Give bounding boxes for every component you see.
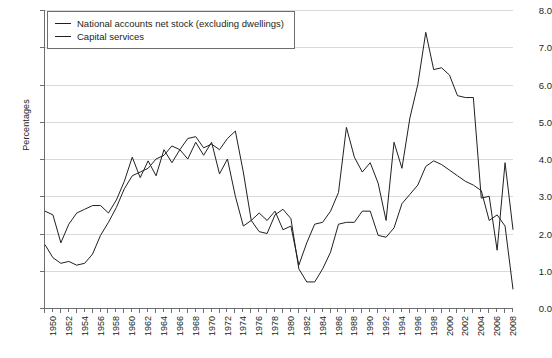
x-tick-mark (369, 308, 370, 312)
x-tick-label: 2006 (492, 316, 502, 336)
y-tick-mark (40, 196, 44, 197)
x-tick-mark (211, 308, 212, 312)
y-tick-mark (40, 159, 44, 160)
y-tick-mark (40, 271, 44, 272)
x-tick-mark (282, 308, 283, 313)
x-tick-label: 1956 (96, 316, 106, 336)
x-tick-mark (330, 308, 331, 313)
x-tick-label: 2008 (508, 316, 518, 336)
x-tick-mark (187, 308, 188, 313)
x-tick-mark (147, 308, 148, 312)
x-tick-mark (480, 308, 481, 312)
x-tick-mark (234, 308, 235, 313)
x-tick-label: 1992 (381, 316, 391, 336)
x-tick-mark (44, 308, 45, 313)
x-tick-mark (504, 308, 505, 313)
x-tick-mark (163, 308, 164, 312)
x-tick-mark (512, 308, 513, 312)
chart-legend: National accounts net stock (excluding d… (47, 11, 295, 49)
x-tick-mark (139, 308, 140, 313)
chart-figure: Percentages 0.01.02.03.04.05.06.07.08.0 … (0, 0, 552, 358)
x-tick-label: 1984 (318, 316, 328, 336)
series-line (45, 131, 513, 289)
x-tick-label: 2002 (460, 316, 470, 336)
x-tick-mark (84, 308, 85, 312)
x-tick-mark (409, 308, 410, 313)
x-tick-mark (195, 308, 196, 312)
x-tick-mark (361, 308, 362, 313)
x-tick-label: 1970 (207, 316, 217, 336)
x-tick-mark (226, 308, 227, 312)
x-tick-mark (449, 308, 450, 312)
x-tick-mark (52, 308, 53, 312)
x-tick-mark (60, 308, 61, 313)
x-tick-mark (464, 308, 465, 312)
plot-area (44, 10, 513, 308)
legend-item: National accounts net stock (excluding d… (55, 17, 284, 30)
x-tick-mark (306, 308, 307, 312)
x-tick-mark (100, 308, 101, 312)
x-tick-mark (322, 308, 323, 312)
x-tick-label: 1976 (254, 316, 264, 336)
y-tick-label: 4.0 (516, 154, 552, 165)
x-tick-label: 1980 (286, 316, 296, 336)
x-tick-label: 1968 (191, 316, 201, 336)
x-tick-label: 2000 (445, 316, 455, 336)
x-tick-label: 1996 (413, 316, 423, 336)
y-tick-label: 3.0 (516, 191, 552, 202)
y-tick-label: 6.0 (516, 79, 552, 90)
y-axis-title: Percentages (21, 65, 31, 185)
x-tick-label: 1954 (80, 316, 90, 336)
x-tick-mark (314, 308, 315, 313)
x-tick-mark (401, 308, 402, 312)
x-tick-mark (353, 308, 354, 312)
series-layer (45, 10, 513, 308)
x-tick-mark (155, 308, 156, 313)
x-tick-label: 1994 (397, 316, 407, 336)
x-tick-label: 1982 (302, 316, 312, 336)
x-tick-mark (92, 308, 93, 313)
x-tick-mark (496, 308, 497, 312)
x-tick-mark (123, 308, 124, 313)
legend-line-icon (55, 23, 71, 24)
x-tick-label: 1958 (111, 316, 121, 336)
x-tick-mark (377, 308, 378, 313)
y-tick-label: 5.0 (516, 116, 552, 127)
x-tick-mark (219, 308, 220, 313)
x-tick-mark (107, 308, 108, 313)
y-tick-label: 2.0 (516, 228, 552, 239)
y-tick-mark (40, 122, 44, 123)
x-tick-label: 1998 (429, 316, 439, 336)
x-tick-mark (425, 308, 426, 313)
x-tick-label: 1974 (238, 316, 248, 336)
x-tick-mark (250, 308, 251, 313)
x-tick-mark (115, 308, 116, 312)
x-tick-mark (274, 308, 275, 312)
x-tick-mark (131, 308, 132, 312)
legend-line-icon (55, 36, 71, 37)
x-axis: 1950195219541956195819601962196419661968… (44, 308, 512, 358)
legend-item: Capital services (55, 30, 284, 43)
x-tick-label: 1950 (48, 316, 58, 336)
x-tick-mark (441, 308, 442, 313)
y-tick-label: 7.0 (516, 42, 552, 53)
x-tick-mark (488, 308, 489, 313)
y-tick-label: 8.0 (516, 5, 552, 16)
x-tick-mark (290, 308, 291, 312)
y-tick-label: 0.0 (516, 303, 552, 314)
x-tick-mark (417, 308, 418, 312)
x-tick-label: 1972 (223, 316, 233, 336)
x-tick-mark (258, 308, 259, 312)
x-tick-mark (385, 308, 386, 312)
x-tick-mark (171, 308, 172, 313)
x-tick-mark (266, 308, 267, 313)
x-tick-mark (345, 308, 346, 313)
y-tick-label: 1.0 (516, 265, 552, 276)
x-tick-mark (298, 308, 299, 313)
x-tick-mark (337, 308, 338, 312)
x-tick-label: 2004 (476, 316, 486, 336)
x-tick-mark (456, 308, 457, 313)
x-tick-mark (433, 308, 434, 312)
x-tick-label: 1960 (127, 316, 137, 336)
x-tick-mark (393, 308, 394, 313)
